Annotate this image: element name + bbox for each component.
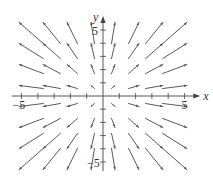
field-arrow: [146, 43, 163, 58]
axes: [12, 16, 201, 171]
field-arrow: [163, 133, 187, 148]
x-tick-label-neg5: −5: [13, 98, 26, 112]
field-arrow: [67, 148, 77, 169]
field-arrowhead-icon: [184, 64, 187, 66]
field-arrow: [43, 148, 60, 169]
field-arrow: [43, 133, 60, 148]
field-arrowhead-icon: [67, 104, 70, 106]
field-arrow: [163, 148, 187, 169]
x-tick-label-5: 5: [182, 98, 188, 112]
field-arrow: [112, 148, 115, 169]
field-arrow: [163, 64, 187, 73]
field-arrowhead-icon: [184, 125, 187, 127]
field-arrow: [163, 85, 187, 88]
x-axis-arrowhead-icon: [193, 93, 200, 98]
vector-field-plot: x y −5 5 5 −5: [0, 0, 213, 178]
field-arrowhead-icon: [136, 85, 139, 87]
field-arrowhead-icon: [91, 124, 93, 127]
field-arrowhead-icon: [67, 85, 70, 87]
field-arrowhead-icon: [91, 64, 93, 67]
field-arrow: [146, 133, 163, 148]
field-arrow: [19, 148, 43, 169]
field-arrow: [19, 118, 43, 127]
field-arrow: [163, 118, 187, 127]
field-arrow: [43, 43, 60, 58]
field-arrow: [129, 22, 139, 43]
field-arrow: [19, 133, 43, 148]
x-axis-label: x: [202, 89, 209, 103]
y-axis-arrowhead-icon: [100, 16, 105, 23]
y-tick-label-5: 5: [92, 24, 98, 38]
field-arrow: [112, 22, 115, 43]
field-arrow: [43, 22, 60, 43]
y-tick-label-neg5: −5: [87, 156, 100, 170]
field-arrowhead-icon: [113, 124, 115, 127]
field-arrow: [19, 22, 43, 43]
field-arrow: [67, 22, 77, 43]
field-arrow: [19, 64, 43, 73]
field-arrow: [19, 43, 43, 58]
field-arrow: [146, 22, 163, 43]
field-arrowhead-icon: [136, 104, 139, 106]
field-arrowhead-icon: [19, 125, 22, 127]
field-arrow: [19, 85, 43, 88]
field-arrowhead-icon: [113, 64, 115, 67]
field-arrow: [129, 148, 139, 169]
field-arrow: [163, 43, 187, 58]
field-arrowhead-icon: [19, 64, 22, 66]
y-axis-label: y: [92, 10, 99, 24]
field-arrow: [146, 148, 163, 169]
field-arrow: [163, 22, 187, 43]
